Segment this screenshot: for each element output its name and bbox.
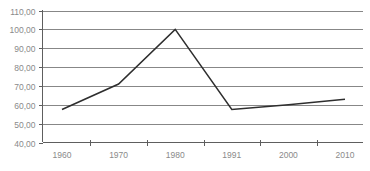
x-axis-tick-label: 1991	[222, 150, 241, 160]
x-axis-tick-label: 1980	[166, 150, 185, 160]
data-series-line	[62, 29, 345, 109]
y-axis-tick-label: 110,00	[10, 7, 36, 17]
x-axis-tick-label: 2010	[336, 150, 355, 160]
y-axis-tick-labels: 110,00100,0090,0080,0070,0060,0050,0040,…	[10, 7, 36, 149]
y-axis-tick-marks	[39, 12, 43, 144]
y-axis-tick-label: 80,00	[14, 63, 36, 73]
y-axis-tick-label: 50,00	[14, 120, 36, 130]
x-axis-tick-label: 1970	[109, 150, 128, 160]
y-axis-tick-label: 70,00	[14, 82, 36, 92]
x-axis-tick-label: 2000	[279, 150, 298, 160]
y-axis-tick-label: 40,00	[14, 139, 36, 149]
line-chart: 110,00100,0090,0080,0070,0060,0050,0040,…	[0, 0, 370, 171]
y-axis-tick-label: 60,00	[14, 101, 36, 111]
x-axis-tick-label: 1960	[53, 150, 72, 160]
y-axis-tick-label: 100,00	[10, 25, 36, 35]
x-axis-tick-labels: 196019701980199120002010	[53, 150, 355, 160]
y-axis-tick-label: 90,00	[14, 44, 36, 54]
chart-canvas: 110,00100,0090,0080,0070,0060,0050,0040,…	[0, 0, 370, 171]
